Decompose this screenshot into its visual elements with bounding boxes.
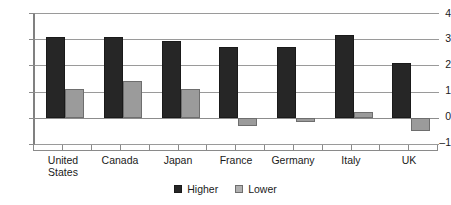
bar-lower-italy	[354, 112, 373, 118]
bar-group-united-states	[35, 13, 93, 144]
x-axis-label-italy: Italy	[322, 155, 380, 167]
x-tick-6	[206, 145, 207, 151]
x-axis-label-japan: Japan	[149, 155, 207, 167]
x-tick-0	[33, 145, 34, 151]
bar-group-canada	[93, 13, 151, 144]
x-tick-3	[120, 145, 121, 151]
x-tick-7	[235, 145, 236, 151]
x-axis-label-uk: UK	[380, 155, 438, 167]
bar-lower-germany	[296, 118, 315, 122]
x-axis-label-line-1: United	[48, 154, 78, 166]
y-tick-minus-1	[29, 144, 35, 145]
x-axis-label-france: France	[207, 155, 265, 167]
x-tick-9	[293, 145, 294, 151]
bar-group-japan	[151, 13, 209, 144]
legend-swatch-higher-icon	[174, 185, 182, 193]
bar-lower-japan	[181, 89, 200, 118]
bar-higher-united-states	[46, 37, 65, 118]
x-tick-14	[437, 145, 438, 151]
x-axis-label-united-states: United States	[34, 155, 92, 178]
bar-higher-uk	[392, 63, 411, 118]
bar-higher-japan	[162, 41, 181, 118]
x-axis-label-germany: Germany	[264, 155, 322, 167]
bar-higher-france	[219, 47, 238, 118]
bar-higher-italy	[335, 35, 354, 118]
bar-lower-france	[238, 118, 257, 126]
x-tick-11	[351, 145, 352, 151]
bar-higher-canada	[104, 37, 123, 118]
bar-higher-germany	[277, 47, 296, 118]
legend-entry-lower: Lower	[235, 184, 277, 195]
x-tick-4	[149, 145, 150, 151]
bar-lower-uk	[411, 118, 430, 131]
bar-group-italy	[324, 13, 382, 144]
x-tick-1	[62, 145, 63, 151]
bar-lower-united-states	[65, 89, 84, 118]
bar-chart: 4 3 2 1 0 –1	[0, 0, 451, 205]
x-tick-10	[322, 145, 323, 151]
bar-group-uk	[381, 13, 439, 144]
x-tick-5	[178, 145, 179, 151]
bar-lower-canada	[123, 81, 142, 118]
bar-group-france	[208, 13, 266, 144]
legend-label-higher: Higher	[187, 184, 218, 195]
x-axis-label-line-2: States	[48, 166, 78, 178]
legend-entry-higher: Higher	[174, 184, 218, 195]
bar-group-germany	[266, 13, 324, 144]
plot-area	[33, 13, 437, 144]
x-tick-12	[379, 145, 380, 151]
legend-label-lower: Lower	[248, 184, 277, 195]
legend-swatch-lower-icon	[235, 185, 243, 193]
x-tick-2	[91, 145, 92, 151]
x-tick-13	[408, 145, 409, 151]
chart-legend: Higher Lower	[0, 184, 451, 195]
x-tick-8	[264, 145, 265, 151]
x-axis-label-canada: Canada	[91, 155, 149, 167]
